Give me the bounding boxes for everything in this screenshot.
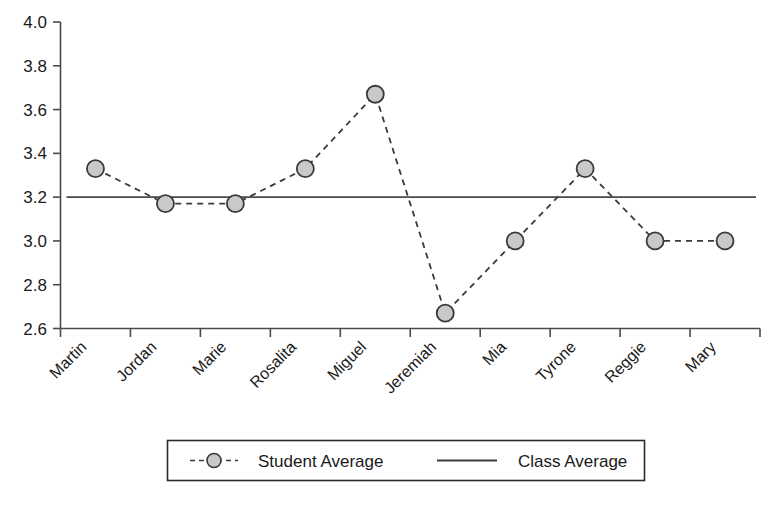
data-point-marker[interactable] — [437, 305, 454, 322]
y-axis-tick-label: 2.6 — [23, 320, 47, 339]
y-axis-tick-label: 4.0 — [23, 13, 47, 32]
chart-container: 2.62.83.03.23.43.63.84.0 MartinJordanMar… — [0, 0, 776, 511]
x-axis-tick-label: Jordan — [113, 338, 160, 385]
data-point-marker[interactable] — [507, 232, 524, 249]
series-student-average-line — [95, 94, 725, 313]
x-axis-tick-label: Rosalita — [247, 338, 300, 391]
y-axis-tick-label: 3.0 — [23, 232, 47, 251]
y-axis-tick-labels: 2.62.83.03.23.43.63.84.0 — [23, 13, 47, 339]
x-axis-tick-label: Reggie — [601, 338, 649, 386]
y-axis-tick-label: 3.2 — [23, 188, 47, 207]
data-point-marker[interactable] — [647, 232, 664, 249]
student-average-polyline — [95, 94, 725, 313]
x-axis-ticks — [61, 329, 761, 338]
x-axis-tick-label: Mia — [479, 338, 509, 368]
data-point-marker[interactable] — [367, 86, 384, 103]
legend-label-class-average: Class Average — [518, 452, 627, 471]
x-axis-tick-label: Marie — [189, 338, 229, 378]
x-axis-tick-labels: MartinJordanMarieRosalitaMiguelJeremiahM… — [46, 338, 719, 397]
y-axis-ticks — [53, 22, 61, 329]
data-point-marker[interactable] — [227, 195, 244, 212]
y-axis-tick-label: 3.4 — [23, 144, 47, 163]
chart-plot-area: 2.62.83.03.23.43.63.84.0 MartinJordanMar… — [0, 0, 776, 511]
y-axis-tick-label: 3.8 — [23, 57, 47, 76]
x-axis-tick-label: Jeremiah — [381, 338, 440, 397]
data-point-marker[interactable] — [297, 160, 314, 177]
x-axis-tick-label: Martin — [46, 338, 89, 381]
y-axis-tick-label: 2.8 — [23, 276, 47, 295]
legend-circle-marker-icon — [207, 454, 221, 468]
data-point-marker[interactable] — [577, 160, 594, 177]
legend-label-student-average: Student Average — [258, 452, 383, 471]
x-axis-tick-label: Tyrone — [533, 338, 580, 385]
x-axis-tick-label: Miguel — [324, 338, 369, 383]
data-point-marker[interactable] — [87, 160, 104, 177]
data-point-marker[interactable] — [157, 195, 174, 212]
y-axis-tick-label: 3.6 — [23, 101, 47, 120]
data-point-marker[interactable] — [717, 232, 734, 249]
x-axis-tick-label: Mary — [682, 338, 719, 375]
